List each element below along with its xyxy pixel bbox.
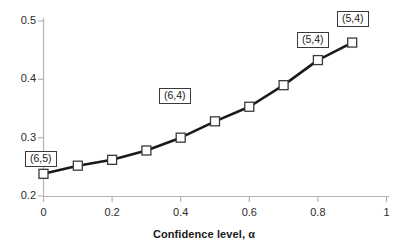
x-tick-label-2: 0.4 [161,207,201,218]
x-tick-label-5: 1 [367,207,407,218]
y-tick-label-0: 0.5 [8,15,36,26]
x-tick-marks [44,197,387,203]
chart-container: 0.5 0.4 0.3 0.2 0 0.2 0.4 0.6 0.8 1 Conf… [0,0,408,249]
data-point-markers [39,38,357,178]
annotation-label-6-4: (6,4) [159,88,191,104]
x-tick-label-3: 0.6 [229,207,269,218]
annotation-label-6-5: (6,5) [25,151,57,167]
y-tick-label-3: 0.2 [8,190,36,201]
x-tick-label-0: 0 [24,207,64,218]
y-tick-label-1: 0.4 [8,73,36,84]
x-tick-label-1: 0.2 [92,207,132,218]
annotation-label-5-4-a: (5,4) [297,32,329,48]
annotation-label-5-4-b: (5,4) [337,11,369,27]
x-tick-label-4: 0.8 [298,207,338,218]
series-polyline [44,43,353,174]
x-axis-title: Confidence level, α [0,228,408,240]
y-tick-label-2: 0.3 [8,132,36,143]
